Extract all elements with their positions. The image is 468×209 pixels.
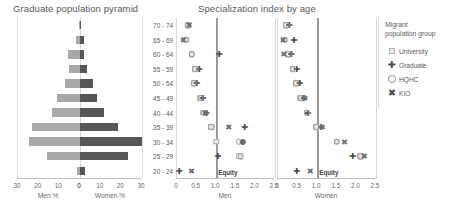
pyramid-tick-men: 10 [55, 182, 62, 189]
pyramid-half-women [80, 50, 142, 58]
marker-graduate: ✚ [293, 167, 300, 175]
age-group-label: 55 - 59 [153, 65, 173, 72]
pyramid-bar-women [80, 123, 118, 131]
pyramid-bar-women [80, 167, 85, 175]
legend-item-label: Graduate [399, 62, 427, 69]
spec-tick-label: 1.0 [312, 182, 321, 189]
pyramid-tick-women: 30 [137, 182, 144, 189]
legend-title: Migrant population group [385, 20, 465, 38]
pyramid-bar-men [29, 137, 80, 145]
pyramid-row [18, 21, 142, 29]
pyramid-bar-women [80, 152, 128, 160]
specialization-chart-title: Specialization index by age [198, 3, 316, 14]
spec-tick-label: 0.5 [191, 182, 200, 189]
legend-divider [378, 18, 379, 108]
pyramid-row [18, 123, 142, 131]
marker-kio: ✖ [239, 137, 246, 145]
age-group-label: 20 - 24 [153, 167, 173, 174]
equity-label-women: Equity [317, 169, 338, 176]
pyramid-bar-women [80, 137, 142, 145]
pyramid-half-women [80, 79, 142, 87]
pyramid-row [18, 167, 142, 175]
pyramid-bar-women [80, 79, 93, 87]
circle-icon [385, 75, 399, 83]
spec-tick-label: 2.0 [250, 182, 259, 189]
marker-graduate: ✚ [290, 36, 297, 44]
pyramid-half-women [80, 94, 142, 102]
equity-label-men: Equity [216, 169, 237, 176]
pyramid-half-men [18, 108, 80, 116]
pyramid-bar-men [57, 94, 80, 102]
spec-tick-label: 1.5 [230, 182, 239, 189]
age-group-label: 45 - 49 [153, 95, 173, 102]
age-group-label: 50 - 54 [153, 80, 173, 87]
spec-axis-label: Men [219, 192, 232, 199]
marker-kio: ✖ [202, 108, 209, 116]
women-x-axis: 00.51.01.52.02.5Women [277, 178, 375, 209]
marker-graduate: ✚ [214, 152, 221, 160]
men-x-axis: 00.51.01.52.02.5Men [176, 178, 274, 209]
marker-kio: ✖ [225, 123, 232, 131]
marker-kio: ✖ [341, 137, 348, 145]
pyramid-half-men [18, 36, 80, 44]
pyramid-row [18, 36, 142, 44]
pyramid-half-men [18, 167, 80, 175]
marker-kio: ✖ [280, 36, 287, 44]
plus-icon: ✚ [385, 60, 399, 70]
pyramid-half-men [18, 50, 80, 58]
marker-kio: ✖ [186, 21, 193, 29]
pyramid-bar-men [52, 108, 80, 116]
marker-kio: ✖ [301, 94, 308, 102]
pyramid-bar-men [69, 65, 80, 73]
pyramid-row [18, 50, 142, 58]
pyramid-chart-title: Graduate population pyramid [13, 3, 138, 14]
pyramid-bar-women [80, 94, 97, 102]
legend-item-graduate[interactable]: ✚Graduate [385, 58, 465, 72]
pyramid-half-men [18, 152, 80, 160]
legend-title-line2: population group [385, 29, 465, 38]
pyramid-half-men [18, 94, 80, 102]
legend-item-kio[interactable]: ✖KIO [385, 86, 465, 100]
marker-kio: ✖ [180, 36, 187, 44]
population-pyramid-plot [17, 18, 143, 178]
marker-graduate: ✚ [241, 123, 248, 131]
legend-item-university[interactable]: University [385, 44, 465, 58]
pyramid-half-women [80, 36, 142, 44]
pyramid-row [18, 94, 142, 102]
age-group-label: 35 - 39 [153, 124, 173, 131]
marker-kio: ✖ [318, 123, 325, 131]
spec-tick-label: 1.0 [211, 182, 220, 189]
age-group-label: 30 - 34 [153, 138, 173, 145]
pyramid-half-women [80, 123, 142, 131]
legend-items: University✚GraduateHQHC✖KIO [385, 44, 465, 100]
marker-kio: ✖ [361, 152, 368, 160]
marker-kio: ✖ [188, 167, 195, 175]
circle-icon-shape [388, 75, 396, 83]
specialization-plot-men: Equity ✚✚✚✚✚✚✚✚✚✖✖✖✖✖✖ [176, 18, 276, 178]
age-group-labels: 70 - 7465 - 6960 - 6455 - 5950 - 5445 - … [145, 18, 173, 178]
square-icon-shape [389, 48, 396, 55]
marker-graduate: ✚ [349, 152, 356, 160]
pyramid-tick-women: 20 [117, 182, 124, 189]
legend-item-hqhc[interactable]: HQHC [385, 72, 465, 86]
pyramid-half-women [80, 137, 142, 145]
pyramid-bar-women [80, 50, 84, 58]
pyramid-half-men [18, 65, 80, 73]
pyramid-half-men [18, 79, 80, 87]
pyramid-half-women [80, 65, 142, 73]
pyramid-row [18, 108, 142, 116]
pyramid-half-women [80, 167, 142, 175]
pyramid-half-men [18, 123, 80, 131]
legend-item-label: KIO [399, 90, 410, 97]
pyramid-axis-label: Men % [38, 192, 59, 199]
spec-tick-label: 0 [174, 182, 178, 189]
marker-university [213, 139, 219, 145]
pyramid-bar-men [65, 79, 81, 87]
marker-kio: ✖ [280, 50, 287, 58]
legend-title-line1: Migrant [385, 20, 465, 29]
age-group-label: 65 - 69 [153, 36, 173, 43]
pyramid-half-men [18, 137, 80, 145]
pyramid-tick-women: 0 [77, 182, 81, 189]
pyramid-bar-men [32, 123, 80, 131]
square-icon [385, 48, 399, 55]
